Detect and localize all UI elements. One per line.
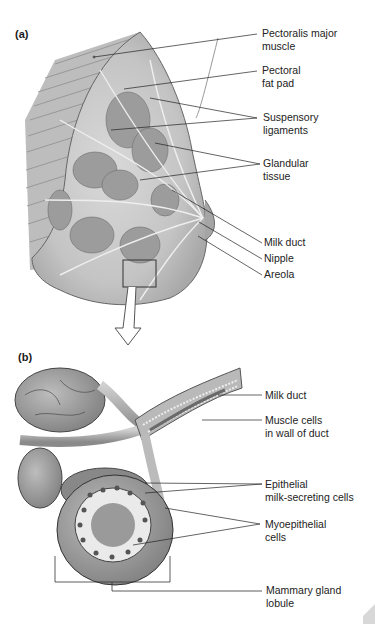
milk-duct-shape bbox=[135, 368, 242, 500]
label-milk-duct-a: Milk duct bbox=[264, 236, 305, 249]
label-muscle-cells: Muscle cells in wall of duct bbox=[265, 414, 329, 440]
label-suspensory-ligaments: Suspensory ligaments bbox=[263, 111, 318, 137]
label-myoepithelial-cells: Myoepithelial cells bbox=[265, 518, 326, 544]
label-areola: Areola bbox=[264, 268, 294, 281]
panel-b-label: (b) bbox=[18, 351, 32, 363]
label-pectoralis-major-muscle: Pectoralis major muscle bbox=[262, 27, 337, 53]
label-nipple: Nipple bbox=[264, 252, 294, 265]
lobule-with-cells bbox=[57, 475, 173, 585]
label-epithelial-cells: Epithelial milk-secreting cells bbox=[265, 478, 354, 504]
label-glandular-tissue: Glandular tissue bbox=[263, 157, 309, 183]
nipple-shape bbox=[205, 200, 214, 240]
lobule-cluster-top bbox=[15, 368, 105, 432]
label-mammary-gland-lobule: Mammary gland lobule bbox=[266, 584, 341, 610]
panel-a-label: (a) bbox=[15, 28, 28, 40]
label-pectoral-fat-pad: Pectoral fat pad bbox=[262, 64, 301, 90]
branch-duct bbox=[20, 430, 140, 442]
lobule-cluster-left bbox=[18, 448, 62, 508]
page-corner bbox=[363, 604, 375, 624]
label-milk-duct-b: Milk duct bbox=[265, 389, 306, 402]
